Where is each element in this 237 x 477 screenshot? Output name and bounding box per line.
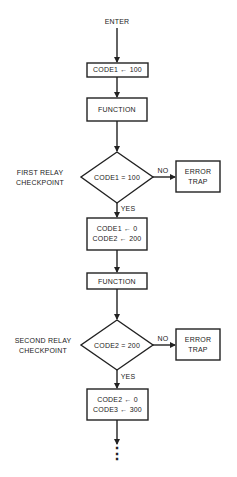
start-label: ENTER — [92, 17, 142, 26]
checkpoint1-side-label-1: FIRST RELAY — [10, 168, 70, 177]
checkpoint1-no-label: NO — [155, 166, 171, 175]
function2-label: FUNCTION — [87, 277, 147, 286]
step2-label-1: CODE1 ← 0 — [87, 224, 147, 233]
checkpoint1-condition: CODE1 = 100 — [84, 173, 150, 182]
error-trap1-label-1: ERROR — [176, 167, 220, 176]
continuation-ellipsis-icon: ⋮ — [107, 445, 127, 463]
step3-label-1: CODE2 ← 0 — [87, 395, 148, 404]
checkpoint2-side-label-1: SECOND RELAY — [8, 336, 78, 345]
step3-label-2: CODE3 ← 300 — [87, 405, 148, 414]
step1-label: CODE1 ← 100 — [87, 65, 148, 74]
checkpoint2-condition: CODE2 = 200 — [84, 341, 150, 350]
checkpoint1-side-label-2: CHECKPOINT — [10, 178, 70, 187]
checkpoint2-yes-label: YES — [120, 372, 136, 381]
checkpoint1-yes-label: YES — [120, 204, 136, 213]
error-trap2-label-2: TRAP — [176, 345, 220, 354]
checkpoint2-no-label: NO — [155, 334, 171, 343]
error-trap1-label-2: TRAP — [176, 177, 220, 186]
function1-label: FUNCTION — [87, 105, 147, 114]
checkpoint2-side-label-2: CHECKPOINT — [8, 346, 78, 355]
error-trap2-label-1: ERROR — [176, 335, 220, 344]
step2-label-2: CODE2 ← 200 — [87, 234, 147, 243]
